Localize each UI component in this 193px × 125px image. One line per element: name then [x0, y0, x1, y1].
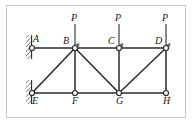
load-label-B: P: [71, 13, 77, 23]
joint-label-H: H: [163, 96, 170, 106]
joint-B: [73, 46, 78, 51]
truss-members: [32, 48, 166, 93]
member-BG: [75, 48, 119, 93]
joint-A: [30, 46, 35, 51]
member-EB: [32, 48, 75, 93]
member-GD: [119, 48, 166, 93]
truss-joints: [30, 46, 169, 96]
load-arrows: [75, 24, 166, 45]
joint-label-F: F: [72, 96, 78, 106]
figure-canvas: A B C D E F G H P P P: [0, 0, 193, 125]
joint-C: [117, 46, 122, 51]
joint-label-A: A: [33, 34, 39, 44]
load-label-D: P: [162, 13, 168, 23]
joint-label-D: D: [155, 36, 162, 46]
joint-label-B: B: [63, 36, 69, 46]
joint-label-E: E: [32, 96, 38, 106]
joint-D: [164, 46, 169, 51]
load-label-C: P: [115, 13, 121, 23]
joint-label-G: G: [116, 96, 123, 106]
joint-label-C: C: [108, 36, 115, 46]
